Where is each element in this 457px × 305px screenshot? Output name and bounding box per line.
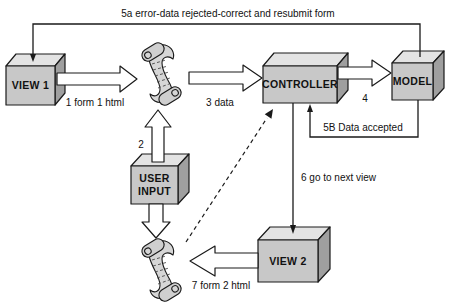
edge-5b-arrowhead — [307, 104, 313, 112]
edge-5a-line — [33, 24, 420, 57]
scroll-icon-form2 — [140, 237, 184, 304]
block-arrow-7-view2-to-form2 — [190, 246, 258, 276]
block-arrow-3-form-to-controller — [189, 65, 262, 91]
label-edge-6: 6 go to next view — [301, 172, 377, 183]
label-model: MODEL — [393, 75, 433, 87]
mvc-flow-diagram: 5a error-data rejected-correct and resub… — [0, 0, 457, 305]
block-arrow-user-input-down — [142, 204, 170, 238]
edge-5a-error-resubmit — [30, 24, 420, 62]
scroll-icon-form1 — [140, 41, 184, 108]
dashed-line — [186, 118, 267, 242]
label-edge-5a: 5a error-data rejected-correct and resub… — [121, 8, 334, 19]
label-view1: VIEW 1 — [12, 79, 49, 91]
label-view2: VIEW 2 — [269, 255, 306, 267]
label-edge-7: 7 form 2 html — [192, 280, 250, 291]
edge-6-next-view — [290, 103, 296, 234]
controller-top-face — [263, 53, 348, 66]
label-user-input-line2: INPUT — [138, 185, 171, 197]
label-edge-3: 3 data — [206, 97, 234, 108]
label-user-input-line1: USER — [139, 172, 169, 184]
label-controller: CONTROLLER — [262, 78, 338, 90]
label-edge-1: 1 form 1 html — [66, 97, 124, 108]
diagram-canvas: 5a error-data rejected-correct and resub… — [0, 0, 457, 305]
block-arrow-1-view1-to-form1 — [57, 66, 137, 92]
edge-dashed-form2-to-controller — [186, 107, 276, 242]
label-edge-4: 4 — [362, 93, 368, 104]
label-edge-2: 2 — [138, 139, 144, 150]
dashed-arrowhead — [265, 107, 277, 119]
label-edge-5b: 5B Data accepted — [323, 122, 403, 133]
